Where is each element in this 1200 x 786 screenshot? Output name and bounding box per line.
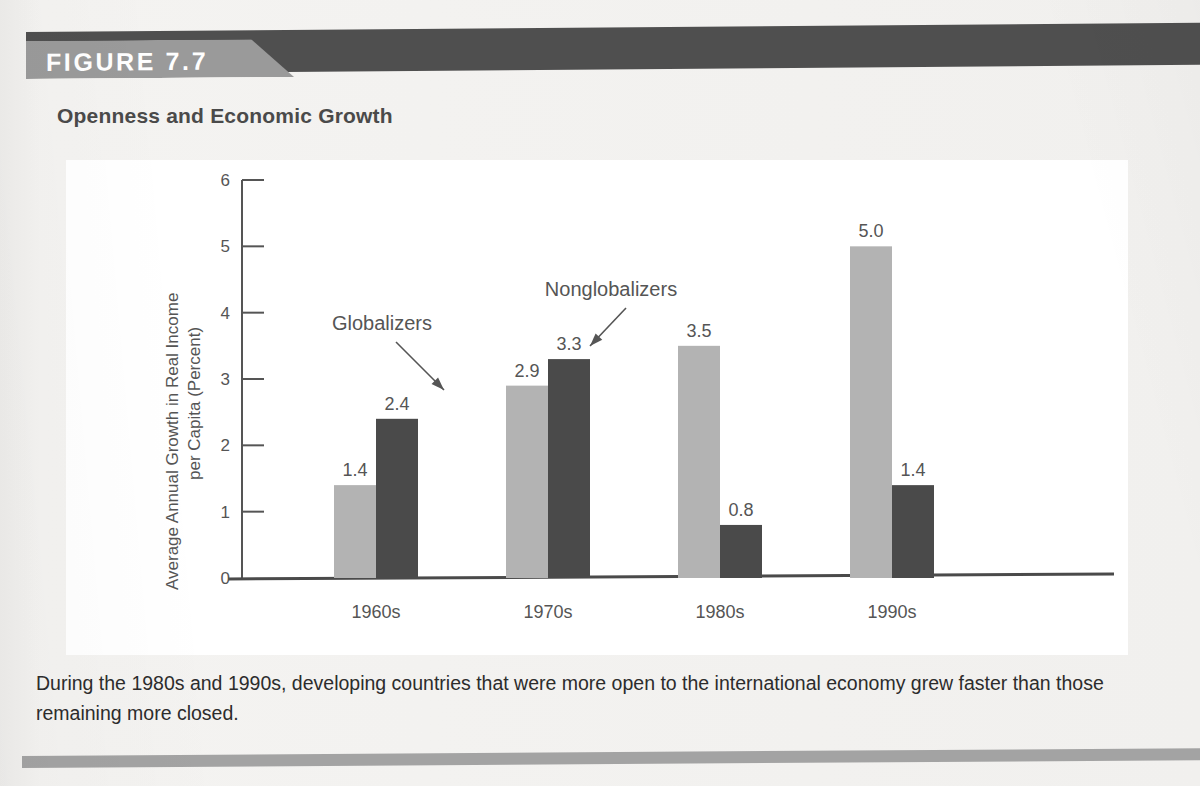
y-axis-tick-label: 4 bbox=[221, 304, 230, 323]
y-axis-tick-label: 6 bbox=[221, 171, 230, 190]
bar-1960s-nonglobalizers bbox=[376, 419, 418, 578]
y-axis-tick-label: 3 bbox=[221, 370, 230, 389]
bar-value-label: 1.4 bbox=[900, 460, 925, 480]
chart-category-labels: 1960s1970s1980s1990s bbox=[351, 602, 916, 622]
figure-title: Openness and Economic Growth bbox=[57, 104, 393, 128]
bar-1970s-globalizers bbox=[506, 386, 548, 578]
chart-value-labels: 1.42.42.93.33.50.85.01.4 bbox=[342, 221, 925, 520]
figure-page: FIGURE 7.7 Openness and Economic Growth … bbox=[0, 0, 1200, 786]
bar-value-label: 3.5 bbox=[686, 321, 711, 341]
y-axis-tick-label: 2 bbox=[221, 436, 230, 455]
y-axis-tick-label: 1 bbox=[221, 503, 230, 522]
figure-badge-label: FIGURE 7.7 bbox=[46, 47, 208, 77]
y-axis-title-line-1: Average Annual Growth in Real Income bbox=[163, 293, 182, 590]
x-axis-category-label: 1990s bbox=[867, 602, 916, 622]
x-axis-category-label: 1970s bbox=[523, 602, 572, 622]
figure-caption: During the 1980s and 1990s, developing c… bbox=[36, 668, 1171, 728]
bar-value-label: 2.4 bbox=[384, 394, 409, 414]
y-axis-title: Average Annual Growth in Real Income per… bbox=[163, 293, 204, 590]
annotation-label-globalizers: Globalizers bbox=[332, 312, 432, 334]
figure-banner: FIGURE 7.7 bbox=[0, 28, 1200, 86]
bar-value-label: 5.0 bbox=[858, 221, 883, 241]
bar-1990s-globalizers bbox=[850, 246, 892, 578]
bar-value-label: 0.8 bbox=[728, 500, 753, 520]
bar-value-label: 3.3 bbox=[556, 334, 581, 354]
x-axis-category-label: 1980s bbox=[695, 602, 744, 622]
y-axis-title-line-2: per Capita (Percent) bbox=[185, 327, 204, 480]
bottom-divider bbox=[22, 748, 1200, 768]
bar-1960s-globalizers bbox=[334, 485, 376, 578]
chart-annotations: GlobalizersNonglobalizers bbox=[332, 278, 677, 390]
y-axis-tick-label: 5 bbox=[221, 237, 230, 256]
y-axis-tick-label: 0 bbox=[221, 569, 230, 588]
bar-1980s-nonglobalizers bbox=[720, 525, 762, 578]
bar-1970s-nonglobalizers bbox=[548, 359, 590, 578]
bar-chart: Average Annual Growth in Real Income per… bbox=[66, 160, 1128, 655]
x-axis-category-label: 1960s bbox=[351, 602, 400, 622]
bar-value-label: 1.4 bbox=[342, 460, 367, 480]
annotation-label-nonglobalizers: Nonglobalizers bbox=[545, 278, 677, 300]
bar-1980s-globalizers bbox=[678, 346, 720, 578]
bar-1990s-nonglobalizers bbox=[892, 485, 934, 578]
chart-panel: Average Annual Growth in Real Income per… bbox=[66, 160, 1128, 655]
bar-value-label: 2.9 bbox=[514, 361, 539, 381]
